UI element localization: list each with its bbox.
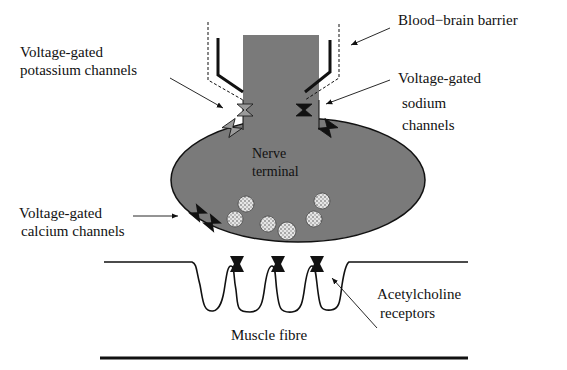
- acetylcholine-receptors-label-line2: receptors: [380, 305, 435, 322]
- muscle-fibre-label: Muscle fibre: [231, 327, 307, 344]
- calcium-channels-label-line2: calcium channels: [21, 223, 125, 240]
- acetylcholine-receptor-icon: [230, 256, 244, 272]
- calcium-channels-label-line1: Voltage-gated: [19, 205, 102, 222]
- potassium-channels-label-line2: potassium channels: [20, 62, 137, 79]
- sodium-channels-label-line2: sodium: [402, 95, 446, 112]
- acetylcholine-receptor-icon: [271, 256, 285, 272]
- potassium-channels-label-line1: Voltage-gated: [20, 44, 103, 61]
- sodium-channels-label-line3: channels: [402, 117, 454, 134]
- acetylcholine-receptors-label-line1: Acetylcholine: [377, 286, 461, 303]
- nerve-terminal-label-line1: Nerve: [252, 146, 286, 162]
- acetylcholine-receptor-icon: [310, 256, 324, 272]
- nerve-terminal: [171, 35, 425, 242]
- sodium-channels-label-line1: Voltage-gated: [398, 70, 481, 87]
- nerve-terminal-label-line2: terminal: [252, 164, 299, 180]
- blood-brain-barrier-label: Blood−brain barrier: [398, 12, 518, 29]
